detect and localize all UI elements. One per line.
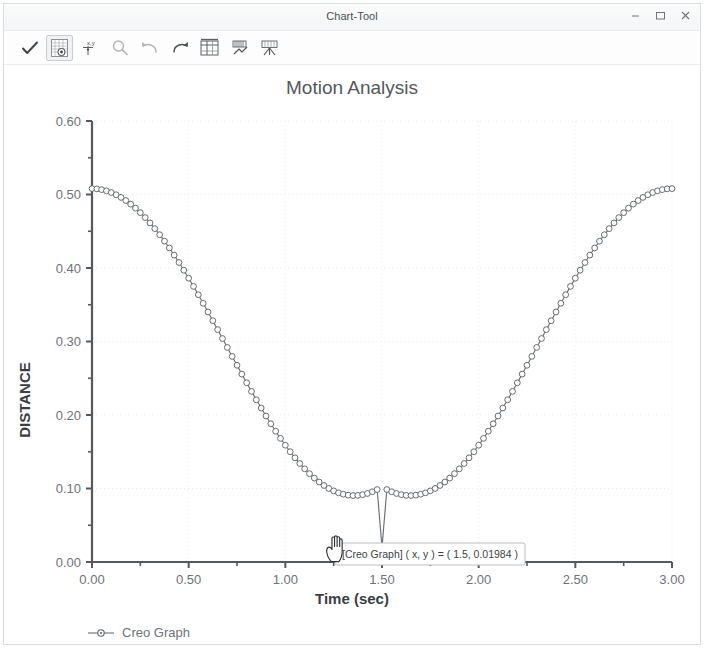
data-point-marker[interactable] — [152, 226, 158, 232]
data-point-marker[interactable] — [224, 345, 230, 351]
data-point-marker[interactable] — [485, 428, 491, 434]
data-point-marker[interactable] — [466, 455, 472, 461]
data-point-marker[interactable] — [577, 267, 583, 273]
data-point-marker[interactable] — [200, 300, 206, 306]
data-point-marker[interactable] — [626, 205, 632, 211]
data-point-marker[interactable] — [311, 475, 317, 481]
data-point-marker[interactable] — [597, 238, 603, 244]
undo-button[interactable] — [136, 35, 163, 61]
data-point-marker[interactable] — [514, 380, 520, 386]
data-series-creo-graph[interactable] — [89, 186, 675, 551]
data-point-marker[interactable] — [471, 449, 477, 455]
y-tick-label: 0.20 — [56, 408, 81, 423]
data-point-marker[interactable] — [543, 327, 549, 333]
data-point-marker[interactable] — [558, 300, 564, 306]
xy-point-button[interactable]: x,y — [76, 35, 103, 61]
data-point-marker[interactable] — [249, 388, 255, 394]
data-point-marker[interactable] — [176, 260, 182, 266]
data-point-marker[interactable] — [505, 397, 511, 403]
data-point-marker[interactable] — [137, 210, 143, 216]
data-point-marker[interactable] — [287, 449, 293, 455]
data-point-marker[interactable] — [621, 210, 627, 216]
zoom-button[interactable] — [106, 35, 133, 61]
data-point-marker[interactable] — [563, 292, 569, 298]
data-point-marker[interactable] — [273, 428, 279, 434]
data-point-marker[interactable] — [490, 421, 496, 427]
legend-label-creo-graph: Creo Graph — [122, 625, 190, 640]
chart-gridlines — [92, 121, 672, 562]
data-point-marker[interactable] — [529, 354, 535, 360]
data-point-marker[interactable] — [572, 275, 578, 281]
data-point-marker[interactable] — [519, 371, 525, 377]
data-point-marker[interactable] — [534, 345, 540, 351]
data-point-marker[interactable] — [186, 275, 192, 281]
data-point-marker[interactable] — [510, 388, 516, 394]
data-point-marker[interactable] — [374, 487, 380, 493]
data-point-marker[interactable] — [234, 362, 240, 368]
data-point-marker[interactable] — [278, 435, 284, 441]
data-point-marker[interactable] — [495, 413, 501, 419]
data-point-marker[interactable] — [239, 371, 245, 377]
data-point-marker[interactable] — [548, 318, 554, 324]
data-point-marker[interactable] — [539, 336, 545, 342]
data-point-marker[interactable] — [592, 245, 598, 251]
data-point-marker[interactable] — [553, 309, 559, 315]
data-point-marker[interactable] — [616, 215, 622, 221]
data-point-marker[interactable] — [611, 220, 617, 226]
title-bar[interactable]: Chart-Tool — [4, 4, 700, 31]
show-grid-button[interactable] — [46, 35, 73, 61]
data-point-marker[interactable] — [191, 283, 197, 289]
data-point-marker[interactable] — [606, 226, 612, 232]
data-point-marker[interactable] — [171, 252, 177, 258]
motion-analysis-chart[interactable]: 0.000.501.001.502.002.503.00 0.000.100.2… — [4, 65, 700, 643]
export-button[interactable] — [256, 35, 283, 61]
data-point-marker[interactable] — [307, 471, 313, 477]
data-point-marker[interactable] — [481, 435, 487, 441]
data-point-marker[interactable] — [568, 283, 574, 289]
redo-button[interactable] — [166, 35, 193, 61]
chart-canvas[interactable]: 0.000.501.001.502.002.503.00 0.000.100.2… — [4, 65, 700, 643]
data-point-marker[interactable] — [452, 471, 458, 477]
maximize-button[interactable] — [653, 8, 667, 23]
data-point-marker[interactable] — [133, 205, 139, 211]
data-point-marker[interactable] — [297, 461, 303, 467]
data-point-marker[interactable] — [205, 309, 211, 315]
chart-legend[interactable]: Creo Graph — [88, 625, 190, 640]
table-view-button[interactable] — [196, 35, 223, 61]
data-point-marker[interactable] — [210, 318, 216, 324]
data-point-marker[interactable] — [461, 461, 467, 467]
data-point-marker[interactable] — [282, 442, 288, 448]
data-point-marker[interactable] — [456, 466, 462, 472]
data-point-marker[interactable] — [302, 466, 308, 472]
close-button[interactable] — [678, 8, 692, 23]
data-point-marker[interactable] — [181, 267, 187, 273]
data-point-marker[interactable] — [582, 260, 588, 266]
accept-check-button[interactable] — [16, 35, 43, 61]
data-point-marker[interactable] — [244, 380, 250, 386]
data-point-marker[interactable] — [500, 405, 506, 411]
data-point-marker[interactable] — [195, 292, 201, 298]
data-point-marker[interactable] — [601, 232, 607, 238]
data-point-marker[interactable] — [447, 475, 453, 481]
data-point-marker[interactable] — [147, 220, 153, 226]
data-point-marker[interactable] — [215, 327, 221, 333]
data-point-marker[interactable] — [229, 354, 235, 360]
bar-chart-button[interactable] — [226, 35, 253, 61]
data-point-marker[interactable] — [476, 442, 482, 448]
data-point-marker[interactable] — [142, 215, 148, 221]
data-point-marker[interactable] — [268, 421, 274, 427]
data-point-marker[interactable] — [524, 362, 530, 368]
minimize-button[interactable] — [628, 8, 642, 23]
data-point-marker[interactable] — [442, 479, 448, 485]
data-point-marker[interactable] — [669, 186, 675, 192]
data-point-marker[interactable] — [128, 201, 134, 207]
data-point-marker[interactable] — [587, 252, 593, 258]
data-point-marker[interactable] — [157, 232, 163, 238]
data-point-marker[interactable] — [253, 397, 259, 403]
data-point-marker[interactable] — [220, 336, 226, 342]
data-point-marker[interactable] — [263, 413, 269, 419]
data-point-marker[interactable] — [166, 245, 172, 251]
data-point-marker[interactable] — [162, 238, 168, 244]
data-point-marker[interactable] — [292, 455, 298, 461]
data-point-marker[interactable] — [258, 405, 264, 411]
